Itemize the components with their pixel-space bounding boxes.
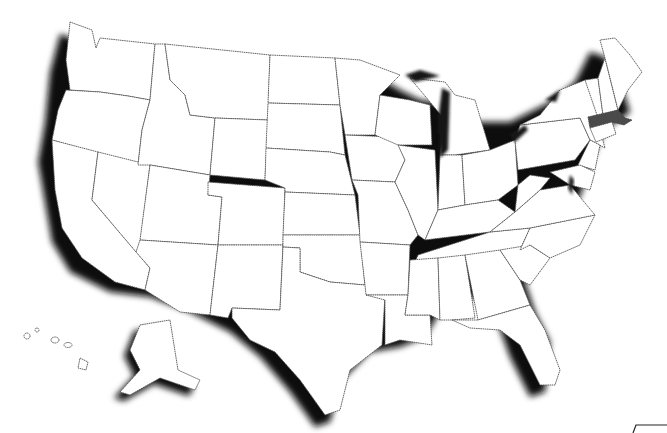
corner-mark — [633, 425, 667, 433]
us-map — [0, 0, 667, 433]
state-north-dakota — [268, 55, 340, 105]
alaska-inset — [114, 320, 200, 401]
state-mississippi — [405, 258, 440, 320]
state-indiana — [438, 155, 465, 210]
state-wyoming — [210, 118, 268, 180]
state-utah — [140, 165, 222, 245]
state-washington — [66, 22, 155, 100]
hawaii-inset — [24, 328, 88, 370]
state-kansas — [283, 192, 360, 235]
lake-superior — [405, 70, 440, 82]
state-arkansas — [360, 242, 410, 295]
state-new-mexico — [210, 245, 283, 318]
state-arizona — [136, 240, 218, 315]
state-south-dakota — [266, 103, 345, 155]
